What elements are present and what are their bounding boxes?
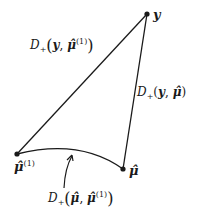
arg-a: y: [53, 38, 60, 52]
edge-y-mu1-label: D+(y, μ̂(1)): [30, 38, 94, 54]
D-symbol: D: [30, 38, 40, 52]
superscript: (1): [76, 37, 87, 46]
edge-y-mu-label: D+(y, μ̂): [137, 86, 186, 101]
diagram-graphics: [0, 0, 197, 218]
pointer-arrow: [64, 156, 72, 188]
comma: ,: [79, 191, 87, 205]
arg-a: y: [158, 85, 165, 99]
node-mu-label: μ̂: [129, 164, 139, 177]
arg-b: μ̂: [67, 38, 76, 52]
arg-b: μ̂: [87, 191, 96, 205]
D-symbol: D: [137, 85, 147, 99]
superscript: (1): [24, 159, 35, 168]
node-y-label: y: [153, 8, 161, 21]
node-y-dot: [144, 11, 149, 16]
D-symbol: D: [48, 191, 58, 205]
close-paren: ): [181, 85, 186, 99]
divergence-triangle-diagram: y μ̂(1) μ̂ D+(y, μ̂(1)) D+(y, μ̂) D+(μ̂,…: [0, 0, 197, 218]
node-mu-dot: [120, 166, 125, 171]
mu-hat-symbol: μ̂: [14, 159, 24, 174]
close-paren: ): [87, 36, 93, 55]
node-mu1-dot: [14, 151, 19, 156]
close-paren: ): [107, 189, 113, 208]
comma: ,: [165, 85, 173, 99]
edge-y-mu1: [17, 14, 147, 154]
edge-mu-mu1-label: D+(μ̂, μ̂(1)): [48, 191, 113, 207]
node-mu1-label: μ̂(1): [14, 160, 35, 173]
mu-hat-symbol: μ̂: [129, 163, 139, 178]
superscript: (1): [96, 190, 107, 199]
y-symbol: y: [153, 7, 161, 22]
